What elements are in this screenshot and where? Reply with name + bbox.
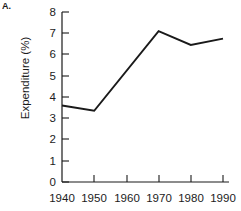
- plot-area: [0, 0, 241, 211]
- data-series-line: [62, 31, 223, 111]
- x-axis-ticks: [94, 175, 223, 182]
- figure-root: A. Expenditure (%) 0 1 2 3 4 5 6 7 8 194…: [0, 0, 241, 211]
- y-axis-ticks: [62, 12, 69, 182]
